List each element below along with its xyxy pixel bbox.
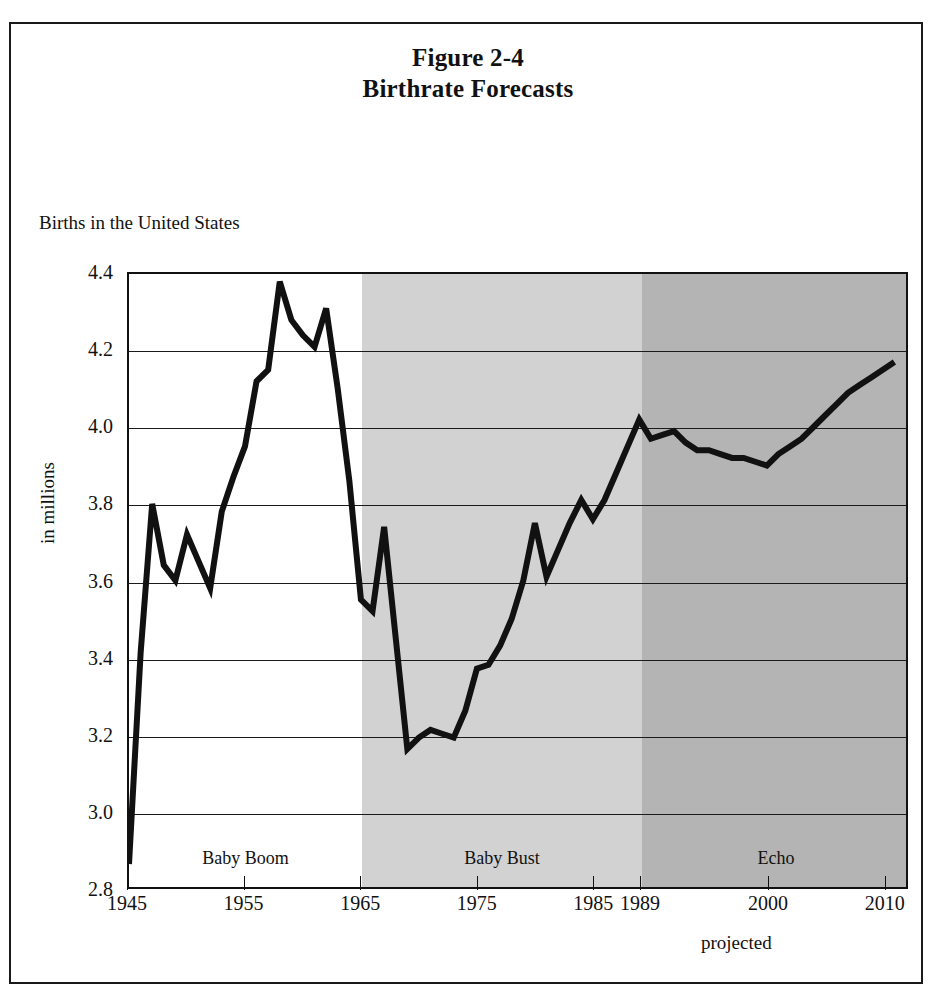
y-tick-3-6: 3.6 (88, 569, 113, 592)
figure-title-line-2: Birthrate Forecasts (11, 73, 925, 104)
x-tick-1985: 1985 (573, 892, 613, 915)
x-tick-mark-1975 (477, 876, 478, 890)
x-tick-1975: 1975 (457, 892, 497, 915)
figure-frame: Figure 2-4 Birthrate Forecasts Births in… (9, 22, 923, 984)
y-tick-3-0: 3.0 (88, 800, 113, 823)
chart-subtitle: Births in the United States (39, 212, 240, 234)
x-tick-mark-1965 (360, 876, 361, 890)
y-tick-3-4: 3.4 (88, 646, 113, 669)
x-tick-mark-2010 (885, 876, 886, 890)
x-axis-tick-labels: 19451955196519751985198920002010 (127, 892, 908, 926)
x-tick-1955: 1955 (224, 892, 264, 915)
era-band-label-baby-boom: Baby Boom (202, 848, 289, 869)
x-tick-1965: 1965 (340, 892, 380, 915)
x-tick-mark-1955 (244, 876, 245, 890)
x-tick-2010: 2010 (865, 892, 905, 915)
x-tick-1989: 1989 (620, 892, 660, 915)
y-tick-4-2: 4.2 (88, 338, 113, 361)
y-tick-3-2: 3.2 (88, 723, 113, 746)
x-tick-2000: 2000 (748, 892, 788, 915)
figure-title-line-1: Figure 2-4 (11, 42, 925, 73)
projected-note: projected (701, 932, 772, 954)
birthrate-line-series (129, 274, 906, 887)
era-band-label-echo: Echo (757, 848, 794, 869)
plot-wrapper: Baby BoomBaby BustEcho (127, 272, 908, 889)
x-tick-mark-1985 (593, 876, 594, 890)
plot-area: Baby BoomBaby BustEcho (127, 272, 908, 889)
figure-title: Figure 2-4 Birthrate Forecasts (11, 42, 925, 104)
y-tick-3-8: 3.8 (88, 492, 113, 515)
era-band-label-baby-bust: Baby Bust (464, 848, 540, 869)
x-tick-1945: 1945 (107, 892, 147, 915)
x-tick-mark-1989 (640, 876, 641, 890)
y-tick-4-0: 4.0 (88, 415, 113, 438)
x-tick-mark-1945 (127, 876, 128, 890)
x-tick-mark-2000 (768, 876, 769, 890)
y-axis-tick-labels: 4.44.24.03.83.63.43.23.02.8 (47, 272, 113, 889)
y-tick-4-4: 4.4 (88, 261, 113, 284)
